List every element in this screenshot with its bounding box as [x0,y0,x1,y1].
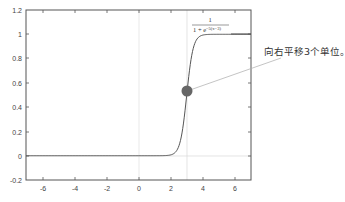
y-tick-label: 0.6 [12,80,22,87]
annotation-pointer-line [190,58,281,90]
y-tick-label: 0.4 [12,104,22,111]
y-axis-ticks [26,34,251,156]
x-axis-labels: -6 -4 -2 0 2 4 6 [40,185,237,192]
highlight-point [182,86,193,97]
y-tick-label: 1.2 [12,7,22,14]
legend-denominator: 1 + e−5(x−3) [193,26,221,34]
sigmoid-curve [26,34,251,155]
x-tick-label: 2 [169,185,173,192]
x-tick-label: 4 [201,185,205,192]
chart-canvas: -6 -4 -2 0 2 4 6 1.2 1 0.8 0.6 0.4 0.2 0… [0,0,345,202]
x-tick-label: -4 [72,185,78,192]
y-axis-labels: 1.2 1 0.8 0.6 0.4 0.2 0 -0.2 [10,7,22,184]
annotation-text: 向右平移3个单位。 [264,44,345,58]
y-tick-label: 0 [18,153,22,160]
x-tick-label: -2 [104,185,110,192]
legend-numerator: 1 [208,16,211,23]
legend: 1 1 + e−5(x−3) [192,16,251,34]
x-tick-label: -6 [40,185,46,192]
plot-frame [26,10,251,180]
x-tick-label: 0 [137,185,141,192]
y-tick-label: 0.8 [12,55,22,62]
y-tick-label: 0.2 [12,129,22,136]
y-tick-label: 1 [18,31,22,38]
y-tick-label: -0.2 [10,177,22,184]
x-tick-label: 6 [233,185,237,192]
